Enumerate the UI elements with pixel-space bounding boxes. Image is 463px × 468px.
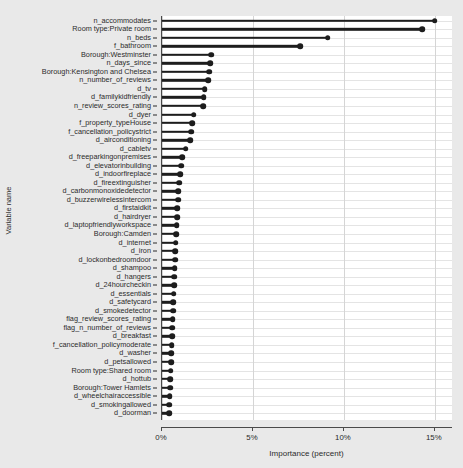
lollipop-marker: [170, 308, 176, 314]
lollipop-marker: [200, 103, 206, 109]
y-axis-tick-mark: [153, 327, 157, 328]
gridline-horizontal: [162, 268, 452, 269]
lollipop-marker: [169, 342, 175, 348]
y-axis-tick-mark: [153, 20, 157, 21]
lollipop-marker: [167, 393, 173, 399]
y-axis-tick-mark: [153, 140, 157, 141]
y-axis-tick-mark: [153, 361, 157, 362]
lollipop-marker: [419, 26, 425, 32]
lollipop-marker: [189, 120, 195, 126]
x-axis-tick-label: 0%: [155, 433, 166, 442]
y-axis-tick-mark: [153, 396, 157, 397]
gridline-horizontal: [162, 234, 452, 235]
gridline-horizontal: [162, 353, 452, 354]
lollipop-marker: [172, 265, 178, 271]
lollipop-marker: [206, 78, 212, 84]
lollipop-stem: [162, 130, 191, 132]
y-axis-tick-mark: [153, 131, 157, 132]
gridline-horizontal: [162, 183, 452, 184]
y-axis-tick-mark: [153, 71, 157, 72]
x-axis-tick-mark: [343, 427, 344, 431]
y-axis-tick-mark: [153, 97, 157, 98]
gridline-horizontal: [162, 174, 452, 175]
gridline-horizontal: [162, 328, 452, 329]
y-axis-tick-mark: [153, 106, 157, 107]
lollipop-marker: [169, 334, 175, 340]
y-axis-tick-mark: [153, 114, 157, 115]
gridline-horizontal: [162, 319, 452, 320]
gridline-horizontal: [162, 157, 452, 158]
gridline-horizontal: [162, 396, 452, 397]
lollipop-stem: [162, 88, 205, 90]
gridline-horizontal: [162, 285, 452, 286]
y-axis-tick-mark: [153, 88, 157, 89]
y-axis-tick-mark: [153, 276, 157, 277]
lollipop-stem: [162, 105, 203, 107]
lollipop-marker: [179, 154, 185, 160]
lollipop-marker: [166, 402, 172, 408]
y-axis-tick-mark: [153, 285, 157, 286]
y-axis-tick-mark: [153, 353, 157, 354]
lollipop-marker: [172, 257, 178, 263]
y-axis-tick-mark: [153, 216, 157, 217]
gridline-horizontal: [162, 123, 452, 124]
lollipop-marker: [187, 137, 193, 143]
lollipop-marker: [177, 171, 183, 177]
lollipop-marker: [175, 197, 181, 203]
gridline-horizontal: [162, 379, 452, 380]
lollipop-marker: [174, 223, 180, 229]
lollipop-marker: [208, 52, 214, 58]
lollipop-marker: [207, 61, 213, 67]
y-axis-title: Variable name: [2, 0, 16, 420]
lollipop-stem: [162, 122, 192, 124]
y-axis-tick-mark: [153, 199, 157, 200]
gridline-horizontal: [162, 345, 452, 346]
lollipop-stem: [162, 71, 209, 73]
x-axis-tick-label: 10%: [335, 433, 351, 442]
lollipop-stem: [162, 79, 208, 81]
y-axis-tick-mark: [153, 182, 157, 183]
lollipop-marker: [171, 282, 177, 288]
gridline-horizontal: [162, 311, 452, 312]
y-axis-tick-mark: [153, 233, 157, 234]
gridline-horizontal: [162, 200, 452, 201]
lollipop-marker: [325, 35, 331, 41]
x-axis-tick-mark: [434, 427, 435, 431]
y-axis-tick-mark: [153, 208, 157, 209]
gridline-horizontal: [162, 208, 452, 209]
lollipop-marker: [167, 385, 173, 391]
y-axis-tick-mark: [153, 157, 157, 158]
lollipop-marker: [166, 410, 172, 416]
y-axis-tick-mark: [153, 165, 157, 166]
x-axis-tick-label: 15%: [426, 433, 442, 442]
x-axis-line: [161, 427, 452, 428]
y-axis-tick-mark: [153, 54, 157, 55]
gridline-horizontal: [162, 277, 452, 278]
chart-container: Variable name n_accommodatesRoom type:Pr…: [0, 0, 463, 468]
x-axis-tick-mark: [161, 427, 162, 431]
lollipop-stem: [162, 62, 210, 64]
y-axis-tick-mark: [153, 123, 157, 124]
y-axis-tick-mark: [153, 251, 157, 252]
gridline-horizontal: [162, 115, 452, 116]
lollipop-marker: [175, 206, 181, 212]
gridline-horizontal: [162, 217, 452, 218]
lollipop-marker: [168, 376, 174, 382]
lollipop-marker: [297, 43, 303, 49]
gridline-horizontal: [162, 149, 452, 150]
lollipop-marker: [168, 359, 174, 365]
gridline-horizontal: [162, 140, 452, 141]
gridline-horizontal: [162, 225, 452, 226]
lollipop-marker: [206, 69, 212, 75]
lollipop-stem: [162, 45, 300, 47]
y-axis-tick-mark: [153, 379, 157, 380]
y-axis-tick-mark: [153, 63, 157, 64]
gridline-horizontal: [162, 413, 452, 414]
lollipop-marker: [178, 163, 184, 169]
lollipop-marker: [170, 317, 176, 323]
y-axis-tick-mark: [153, 37, 157, 38]
y-axis-tick-mark: [153, 242, 157, 243]
y-axis-tick-mark: [153, 80, 157, 81]
lollipop-marker: [171, 291, 177, 297]
lollipop-marker: [169, 325, 175, 331]
